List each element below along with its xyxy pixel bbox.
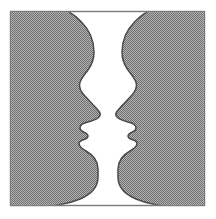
right-face-profile [116,10,207,207]
rubin-vase-illustration [0,0,216,219]
left-face-profile [9,10,100,207]
illusion-figure: Rubin Vase Figure-Ground Illusion [0,0,216,219]
